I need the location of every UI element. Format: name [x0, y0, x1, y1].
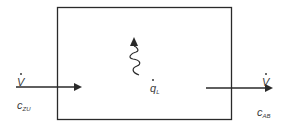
heat-loss-wavy-arrow	[130, 46, 140, 75]
heat-loss-label: qL	[150, 79, 159, 95]
outflow-rate-label: V	[262, 73, 269, 89]
inflow-rate-label: V	[17, 73, 24, 89]
inflow-concentration-label: cZU	[17, 96, 31, 112]
control-volume-diagram	[0, 0, 291, 131]
heat-loss-arrowhead-icon	[130, 37, 138, 46]
control-volume-box	[58, 8, 232, 120]
outflow-concentration-label: cAB	[257, 103, 271, 119]
